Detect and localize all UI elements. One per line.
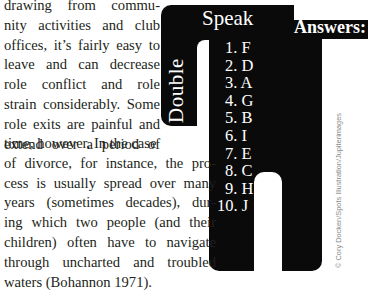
answer-item: 10. J bbox=[217, 197, 253, 215]
text-line: of divorce, for instance, the pro- bbox=[4, 154, 216, 174]
text-line: waters (Bohannon 1971). bbox=[4, 273, 216, 292]
graphic-slot bbox=[254, 172, 282, 276]
answer-item: 6. I bbox=[217, 127, 253, 145]
text-line: through uncharted and troubled bbox=[4, 253, 216, 273]
text-line: leave and can decrease bbox=[4, 55, 160, 75]
text-line: years (sometimes decades), dur- bbox=[4, 193, 216, 213]
text-line: time, however. In the case bbox=[4, 134, 160, 154]
speak-title: Speak bbox=[202, 6, 253, 31]
answer-item: 3. A bbox=[217, 74, 253, 92]
answer-item: 2. D bbox=[217, 57, 253, 75]
text-line: cess is usually spread over many bbox=[4, 174, 216, 194]
answer-item: 4. G bbox=[217, 92, 253, 110]
article-text-wide: time, however. In the case of divorce, f… bbox=[4, 134, 216, 292]
answer-item: 5. B bbox=[217, 109, 253, 127]
answer-item: 8. C bbox=[217, 162, 253, 180]
text-line: nity activities and club bbox=[4, 16, 160, 36]
graphic-notch bbox=[197, 40, 209, 130]
answer-item: 7. E bbox=[217, 145, 253, 163]
image-credit: © Cory Docken/Spots Illustration/Jupiter… bbox=[334, 113, 343, 268]
text-line: role conflict and role bbox=[4, 75, 160, 95]
text-line: children) often have to navigate bbox=[4, 233, 216, 253]
text-line: drawing from commu- bbox=[4, 0, 160, 16]
text-line: offices, it’s fairly easy to bbox=[4, 36, 160, 56]
text-line: role exits are painful and bbox=[4, 115, 160, 135]
text-line: strain considerably. Some bbox=[4, 95, 160, 115]
text-line: ing which two people (and their bbox=[4, 213, 216, 233]
answers-label: Answers: bbox=[294, 17, 366, 38]
answers-list: 1. F 2. D 3. A 4. G 5. B 6. I 7. E 8. C … bbox=[217, 39, 253, 215]
graphic-right-cutout bbox=[322, 39, 368, 276]
answer-item: 9. H bbox=[217, 180, 253, 198]
article-text-narrow: drawing from commu- nity activities and … bbox=[4, 0, 160, 154]
answer-item: 1. F bbox=[217, 39, 253, 57]
double-title: Double bbox=[162, 35, 198, 125]
